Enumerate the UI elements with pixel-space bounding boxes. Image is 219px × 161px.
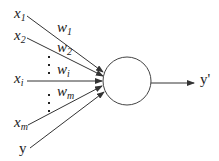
weight-label-w2: w2 — [57, 40, 72, 57]
ellipsis-dots — [48, 56, 50, 112]
weight-label-wi: wi — [57, 62, 70, 79]
input-label-y: y — [19, 141, 27, 156]
input-label-x1: x1 — [14, 6, 26, 23]
weight-label-wm: wm — [57, 84, 74, 101]
diagram-lines — [0, 0, 219, 161]
input-label-xm: xm — [14, 115, 28, 132]
neuron-node — [103, 57, 151, 105]
perceptron-diagram: x1 x2 xi xm y w1 w2 wi wm y' — [0, 0, 219, 161]
weight-label-w1: w1 — [57, 20, 72, 37]
input-label-x2: x2 — [14, 28, 26, 45]
input-label-xi: xi — [14, 71, 23, 88]
output-label: y' — [200, 72, 210, 87]
